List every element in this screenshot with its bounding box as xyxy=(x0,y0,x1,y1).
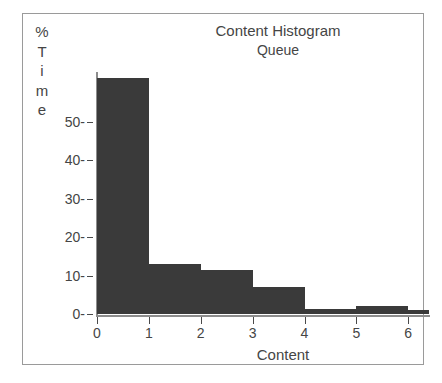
histogram-bar xyxy=(253,287,305,314)
x-axis-tick-mark xyxy=(356,317,357,324)
chart-title: Content Histogram xyxy=(143,22,413,39)
x-axis-tick-label: 4 xyxy=(295,325,315,341)
y-axis-tick-mark xyxy=(87,276,93,277)
chart-subtitle: Queue xyxy=(143,42,413,58)
histogram-bar xyxy=(149,264,201,314)
y-axis-tick-label: 30- xyxy=(65,191,85,207)
y-axis-tick-mark xyxy=(87,314,93,315)
y-axis-tick-label: 50- xyxy=(65,114,85,130)
histogram-bar xyxy=(356,306,408,314)
x-axis-tick-label: 5 xyxy=(346,325,366,341)
x-axis-tick-label: 1 xyxy=(139,325,159,341)
histogram-bar xyxy=(201,270,253,314)
histogram-bar xyxy=(305,309,357,314)
histogram-bar xyxy=(97,78,149,314)
y-axis-tick-label: 10- xyxy=(65,268,85,284)
x-axis-tick-label: 0 xyxy=(87,325,107,341)
y-axis-tick-mark xyxy=(87,237,93,238)
y-axis-tick-label: 40- xyxy=(65,152,85,168)
y-axis-tick-mark xyxy=(87,122,93,123)
x-axis-tick-mark xyxy=(149,317,150,324)
x-axis-title: Content xyxy=(203,346,363,363)
x-axis-tick-label: 3 xyxy=(243,325,263,341)
x-axis-tick-label: 6 xyxy=(398,325,418,341)
y-axis-tick-mark xyxy=(87,160,93,161)
x-axis-tick-mark xyxy=(253,317,254,324)
y-axis-tick-labels: 0-10-20-30-40-50- xyxy=(33,14,85,366)
chart-frame: Content Histogram Queue % T i m e 0-10-2… xyxy=(22,13,424,365)
x-axis-tick-mark xyxy=(201,317,202,324)
y-axis-tick-label: 0- xyxy=(73,306,85,322)
x-axis-tick-mark xyxy=(305,317,306,324)
plot-area xyxy=(97,72,429,314)
y-axis-tick-mark xyxy=(87,199,93,200)
y-axis-tick-label: 20- xyxy=(65,229,85,245)
x-axis-tick-mark xyxy=(97,317,98,324)
histogram-bar xyxy=(408,310,429,314)
x-axis-tick-mark xyxy=(408,317,409,324)
x-axis-tick-label: 2 xyxy=(191,325,211,341)
